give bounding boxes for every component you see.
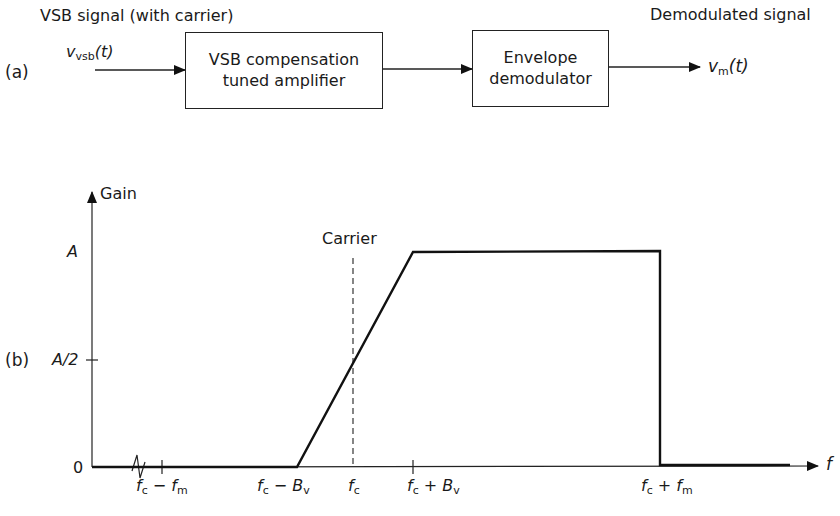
output-signal-label: vm(t) xyxy=(708,58,749,77)
output-signal-arg: (t) xyxy=(729,56,749,76)
x-tick-op: − xyxy=(269,476,293,495)
vsb-compensation-amplifier-block: VSB compensation tuned amplifier xyxy=(185,32,383,109)
y-tick-zero: 0 xyxy=(73,460,83,476)
frequency-axis-label: f xyxy=(826,456,832,473)
x-tick-gsub: m xyxy=(682,484,693,497)
x-tick-fc-plus-fm: fc + fm xyxy=(641,478,693,496)
x-tick-gsub: m xyxy=(177,484,188,497)
input-signal-subscript: vsb xyxy=(75,50,94,63)
x-tick-gsub: v xyxy=(453,484,460,497)
x-tick-op: + xyxy=(653,476,677,495)
part-a-label: (a) xyxy=(5,64,29,81)
block-2-line-2: demodulator xyxy=(489,69,592,90)
y-tick-a: A xyxy=(67,244,78,260)
output-signal-subscript: m xyxy=(718,65,729,78)
x-tick-fc-minus-fm: fc − fm xyxy=(136,478,188,496)
x-tick-op: − xyxy=(148,476,172,495)
block-1-line-2: tuned amplifier xyxy=(223,71,346,92)
x-tick-gsub: v xyxy=(303,484,310,497)
input-signal-arg: (t) xyxy=(95,42,114,61)
block-1-line-1: VSB compensation xyxy=(209,50,359,71)
x-tick-fc-minus-bv: fc − Bv xyxy=(257,478,310,496)
y-tick-a-half: A/2 xyxy=(52,352,79,368)
x-tick-g: B xyxy=(442,476,453,495)
input-title: VSB signal (with carrier) xyxy=(40,8,233,24)
input-signal-label: vvsb(t) xyxy=(66,44,113,62)
block-2-line-1: Envelope xyxy=(504,48,578,69)
envelope-demodulator-block: Envelope demodulator xyxy=(472,30,609,107)
x-tick-fc: fc xyxy=(348,478,360,496)
gain-curve xyxy=(92,251,790,467)
x-tick-op: + xyxy=(419,476,443,495)
x-tick-sub: c xyxy=(354,484,360,497)
carrier-label: Carrier xyxy=(322,231,377,247)
x-tick-fc-plus-bv: fc + Bv xyxy=(407,478,460,496)
output-title: Demodulated signal xyxy=(650,7,811,23)
output-signal-symbol: v xyxy=(708,56,718,76)
diagram-graphics xyxy=(0,0,840,516)
gain-axis-label: Gain xyxy=(100,186,137,202)
x-tick-g: B xyxy=(292,476,303,495)
part-b-label: (b) xyxy=(5,352,29,369)
